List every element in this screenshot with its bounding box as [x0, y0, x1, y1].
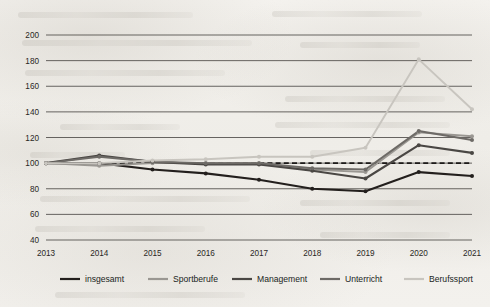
data-point [364, 177, 368, 181]
y-tick-label: 60 [30, 210, 40, 219]
data-point [470, 138, 474, 142]
data-point [364, 168, 368, 172]
data-point [257, 161, 261, 165]
y-tick-label: 200 [25, 31, 39, 40]
y-tick-label: 100 [25, 159, 39, 168]
line-chart: 406080100120140160180200 201320142015201… [0, 0, 490, 307]
series-line-insgesamt [46, 163, 472, 191]
x-axis-tick-labels: 201320142015201620172018201920202021 [37, 249, 482, 258]
legend-label-sportberufe: Sportberufe [173, 274, 218, 284]
y-tick-label: 40 [30, 236, 40, 245]
x-tick-label: 2013 [37, 249, 56, 258]
data-point [97, 161, 101, 165]
y-tick-label: 160 [25, 82, 39, 91]
x-tick-label: 2015 [143, 249, 162, 258]
x-tick-label: 2014 [90, 249, 109, 258]
data-point [151, 168, 155, 172]
data-point [470, 107, 474, 111]
data-point [310, 187, 314, 191]
x-tick-label: 2021 [463, 249, 482, 258]
data-point [44, 161, 48, 165]
data-point [470, 174, 474, 178]
data-point [417, 143, 421, 147]
data-point [204, 171, 208, 175]
data-point [470, 151, 474, 155]
data-point [204, 157, 208, 161]
data-point [97, 155, 101, 159]
chart-legend: insgesamtSportberufeManagementUnterricht… [60, 274, 474, 284]
data-point [417, 57, 421, 61]
legend-label-berufssport: Berufssport [429, 274, 474, 284]
data-point [364, 146, 368, 150]
data-point [257, 178, 261, 182]
data-point [470, 134, 474, 138]
y-tick-label: 80 [30, 185, 40, 194]
data-point [417, 129, 421, 133]
x-tick-label: 2016 [197, 249, 216, 258]
x-tick-label: 2020 [410, 249, 429, 258]
x-tick-label: 2017 [250, 249, 269, 258]
data-point [364, 189, 368, 193]
data-point [204, 161, 208, 165]
series-lines-group [46, 59, 472, 191]
x-tick-label: 2019 [356, 249, 375, 258]
x-tick-label: 2018 [303, 249, 322, 258]
series-line-berufssport [46, 59, 472, 163]
legend-label-management: Management [257, 274, 308, 284]
series-markers-group [44, 57, 474, 193]
data-point [257, 155, 261, 159]
y-axis-tick-labels: 406080100120140160180200 [25, 31, 39, 245]
data-point [151, 159, 155, 163]
chart-svg-canvas: 406080100120140160180200 201320142015201… [0, 0, 490, 307]
data-point [417, 170, 421, 174]
data-point [310, 166, 314, 170]
legend-label-unterricht: Unterricht [345, 274, 383, 284]
y-tick-label: 120 [25, 134, 39, 143]
y-tick-label: 140 [25, 108, 39, 117]
y-gridlines [46, 35, 472, 240]
data-point [310, 155, 314, 159]
y-tick-label: 180 [25, 57, 39, 66]
legend-label-insgesamt: insgesamt [85, 274, 125, 284]
